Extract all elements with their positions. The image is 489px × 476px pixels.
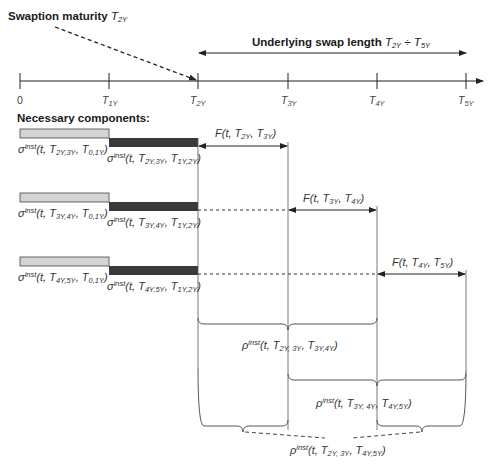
rho-2y3y-3y4y: ρinst(t, T2Y, 3Y, T3Y,4Y) <box>242 339 338 353</box>
rho-3y4y-4y5y: ρinst(t, T3Y, 4Y, T4Y,5Y) <box>316 397 412 411</box>
swaption-maturity-text: Swaption maturity <box>8 10 108 22</box>
rho-2y3y-4y5y: ρinst(t, T2Y, 3Y, T4Y,5Y) <box>290 444 386 458</box>
row2-light-bar <box>20 193 109 202</box>
forward-row2: F(t, T3Y, T4Y) <box>303 193 364 206</box>
tick-label-4y: T4Y <box>369 95 385 108</box>
brace-rho-1 <box>198 318 377 330</box>
row2-dark-bar <box>109 202 198 211</box>
row1-dark-bar <box>109 138 198 147</box>
tick-label-3y: T3Y <box>281 95 297 108</box>
row1-light-bar <box>20 129 109 138</box>
dashed-rho-right <box>352 432 420 438</box>
components-heading: Necessary components: <box>17 113 150 125</box>
dashed-rho-left <box>245 432 325 438</box>
underlying-length-text: Underlying swap length <box>252 36 382 48</box>
swaption-maturity-symbol: T2Y <box>111 10 127 22</box>
row3-dark-bar <box>109 266 198 275</box>
sigma-row1-first: σinst(t, T2Y,3Y, T0,1Y) <box>18 143 108 157</box>
tick-label-1y: T1Y <box>102 95 118 108</box>
sigma-row3-second: σinst(t, T4Y,5Y, T1Y,2Y) <box>107 280 201 294</box>
tick-label-0: 0 <box>17 95 23 106</box>
forward-row3: F(t, T4Y, T5Y) <box>392 257 453 270</box>
sigma-row2-first: σinst(t, T3Y,4Y, T0,1Y) <box>18 207 108 221</box>
brace-small-left <box>198 368 288 432</box>
sigma-row3-first: σinst(t, T4Y,5Y, T0,1Y) <box>18 271 108 285</box>
tick-label-5y: T5Y <box>458 95 474 108</box>
row3-light-bar <box>20 257 109 266</box>
diagram-canvas <box>0 0 489 476</box>
swaption-pointer-arrow <box>55 27 196 80</box>
tick-label-2y: T2Y <box>190 95 206 108</box>
underlying-length-range: T2Y ÷ T5Y <box>385 36 430 48</box>
forward-row1: F(t, T2Y, T3Y) <box>215 128 276 141</box>
underlying-length-label: Underlying swap length T2Y ÷ T5Y <box>252 37 430 50</box>
sigma-row1-second: σinst(t, T2Y,3Y, T1Y,2Y) <box>107 152 201 166</box>
swaption-maturity-label: Swaption maturity T2Y <box>8 11 127 24</box>
sigma-row2-second: σinst(t, T3Y,4Y, T1Y,2Y) <box>107 216 201 230</box>
